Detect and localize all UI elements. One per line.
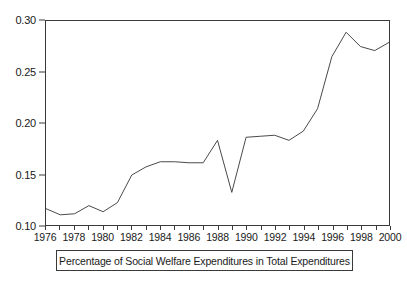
x-tick-mark (103, 226, 104, 230)
x-tick-label: 1998 (350, 231, 373, 243)
y-tick-label: 0.30 (15, 14, 36, 26)
x-tick-mark (390, 226, 391, 230)
y-axis: 0.100.150.200.250.30 (0, 0, 45, 246)
x-tick-mark (88, 226, 89, 230)
x-tick-mark (74, 226, 75, 230)
y-tick-label: 0.15 (15, 169, 36, 181)
x-tick-label: 1976 (34, 231, 57, 243)
x-tick-label: 1988 (206, 231, 229, 243)
x-tick-label: 1996 (321, 231, 344, 243)
x-tick-label: 1994 (292, 231, 315, 243)
x-tick-mark (275, 226, 276, 230)
x-tick-mark (246, 226, 247, 230)
x-tick-mark (146, 226, 147, 230)
x-tick-mark (347, 226, 348, 230)
x-tick-mark (218, 226, 219, 230)
x-tick-label: 1990 (235, 231, 258, 243)
x-tick-label: 1986 (177, 231, 200, 243)
x-tick-mark (376, 226, 377, 230)
line-series (46, 21, 389, 225)
x-tick-label: 1984 (149, 231, 172, 243)
x-tick-label: 1982 (120, 231, 143, 243)
x-tick-mark (318, 226, 319, 230)
x-tick-mark (189, 226, 190, 230)
x-tick-mark (261, 226, 262, 230)
x-tick-label: 1980 (91, 231, 114, 243)
y-tick-label: 0.20 (15, 117, 36, 129)
x-tick-mark (160, 226, 161, 230)
x-tick-mark (232, 226, 233, 230)
x-tick-mark (59, 226, 60, 230)
x-tick-mark (117, 226, 118, 230)
x-tick-mark (289, 226, 290, 230)
x-tick-mark (203, 226, 204, 230)
caption-label: Percentage of Social Welfare Expenditure… (59, 255, 350, 267)
x-tick-mark (174, 226, 175, 230)
x-tick-mark (131, 226, 132, 230)
x-tick-label: 2000 (379, 231, 402, 243)
x-tick-label: 1992 (264, 231, 287, 243)
x-axis-labels: 1976197819801982198419861988199019921994… (0, 231, 407, 245)
chart-figure: 0.100.150.200.250.30 1976197819801982198… (0, 0, 407, 290)
y-tick-label: 0.25 (15, 66, 36, 78)
x-tick-mark (361, 226, 362, 230)
x-tick-mark (304, 226, 305, 230)
x-tick-mark (333, 226, 334, 230)
caption-box: Percentage of Social Welfare Expenditure… (56, 250, 353, 271)
x-tick-mark (45, 226, 46, 230)
series-line (46, 32, 389, 215)
x-tick-label: 1978 (62, 231, 85, 243)
plot-area (45, 20, 390, 226)
